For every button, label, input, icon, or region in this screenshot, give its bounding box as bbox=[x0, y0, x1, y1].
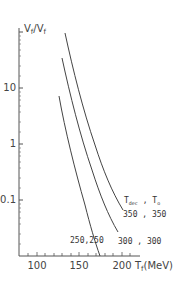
x-tick-label-200: 200 bbox=[112, 260, 131, 271]
svg-text:Tf(MeV): Tf(MeV) bbox=[134, 260, 173, 273]
svg-text:Vf/Vf: Vf/Vf bbox=[24, 23, 47, 36]
curve-label-300: 300 , 300 bbox=[118, 237, 162, 246]
y-axis-title: Vf/Vf bbox=[24, 23, 47, 36]
x-tick-label-150: 150 bbox=[69, 260, 88, 271]
chart-canvas: 10 1 0.1 100 150 200 Vf/Vf Tf(MeV) Tdec … bbox=[0, 0, 176, 281]
curve-label-250: 250,250 bbox=[70, 236, 104, 245]
svg-text:Tdec , To: Tdec , To bbox=[124, 196, 160, 206]
y-tick-label-0.1: 0.1 bbox=[0, 194, 16, 205]
x-tick-label-100: 100 bbox=[27, 260, 46, 271]
curve-300-300 bbox=[62, 58, 118, 232]
legend-title: Tdec , To bbox=[124, 196, 160, 206]
curve-label-350: 350 , 350 bbox=[123, 210, 167, 219]
y-tick-label-10: 10 bbox=[3, 82, 16, 93]
x-ticks bbox=[28, 252, 130, 256]
y-major-ticks bbox=[19, 32, 23, 200]
curve-350-350 bbox=[65, 33, 123, 210]
x-axis-title: Tf(MeV) bbox=[134, 260, 173, 273]
y-tick-label-1: 1 bbox=[10, 138, 16, 149]
